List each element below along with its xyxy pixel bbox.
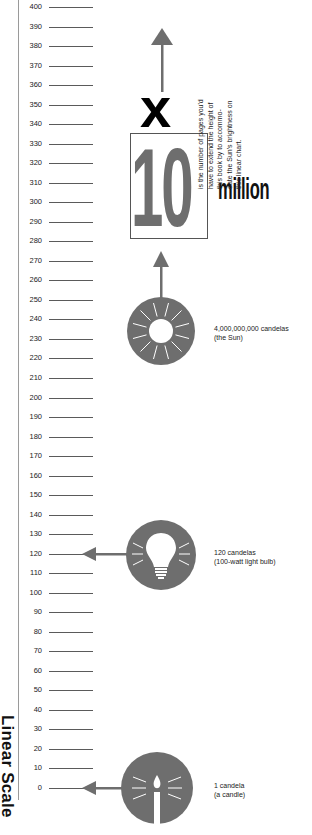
- tick-row: 390: [0, 21, 100, 33]
- tick-line: [49, 183, 93, 184]
- tick-row: 160: [0, 470, 100, 482]
- tick-label: 340: [20, 118, 42, 130]
- tick-label: 60: [20, 665, 42, 677]
- tick-label: 10: [20, 762, 42, 774]
- tick-line: [49, 202, 93, 203]
- tick-line: [49, 124, 93, 125]
- tick-line: [49, 495, 93, 496]
- tick-label: 30: [20, 723, 42, 735]
- multiplier-x: x: [140, 80, 171, 136]
- tick-row: 250: [0, 294, 100, 306]
- tick-line: [49, 671, 93, 672]
- tick-row: 320: [0, 157, 100, 169]
- tick-label: 80: [20, 626, 42, 638]
- tick-label: 160: [20, 470, 42, 482]
- tick-row: 190: [0, 411, 100, 423]
- tick-line: [49, 515, 93, 516]
- callout-line: have to extend the height of: [206, 59, 216, 189]
- scale-title: Linear Scale: [0, 715, 17, 815]
- tick-row: 180: [0, 431, 100, 443]
- tick-label: 300: [20, 196, 42, 208]
- tick-line: [49, 66, 93, 67]
- tick-label: 380: [20, 40, 42, 52]
- tick-line: [49, 476, 93, 477]
- tick-label: 310: [20, 177, 42, 189]
- tick-row: 370: [0, 60, 100, 72]
- tick-label: 110: [20, 567, 42, 579]
- tick-line: [49, 261, 93, 262]
- tick-row: 400: [0, 1, 100, 13]
- bulb-desc: (100-watt light bulb): [214, 557, 275, 566]
- tick-line: [49, 651, 93, 652]
- tick-label: 210: [20, 372, 42, 384]
- tick-label: 70: [20, 645, 42, 657]
- tick-line: [49, 241, 93, 242]
- tick-line: [49, 27, 93, 28]
- tick-label: 360: [20, 79, 42, 91]
- sun-caption: 4,000,000,000 candelas (the Sun): [214, 324, 289, 342]
- tick-row: 260: [0, 274, 100, 286]
- tick-line: [49, 163, 93, 164]
- tick-label: 350: [20, 99, 42, 111]
- tick-line: [49, 632, 93, 633]
- tick-line: [49, 280, 93, 281]
- tick-line: [49, 398, 93, 399]
- tick-row: 80: [0, 626, 100, 638]
- tick-line: [49, 300, 93, 301]
- tick-line: [49, 7, 93, 8]
- sun-value: 4,000,000,000 candelas: [214, 324, 289, 333]
- tick-label: 50: [20, 684, 42, 696]
- tick-line: [49, 749, 93, 750]
- tick-line: [49, 222, 93, 223]
- tick-label: 280: [20, 235, 42, 247]
- sun-icon: [120, 245, 204, 370]
- tick-label: 190: [20, 411, 42, 423]
- tick-label: 150: [20, 489, 42, 501]
- tick-label: 140: [20, 509, 42, 521]
- tick-line: [49, 417, 93, 418]
- tick-row: 350: [0, 99, 100, 111]
- tick-line: [49, 612, 93, 613]
- tick-line: [49, 378, 93, 379]
- tick-label: 370: [20, 60, 42, 72]
- tick-row: 360: [0, 79, 100, 91]
- tick-label: 390: [20, 21, 42, 33]
- light-bulb-icon: [80, 517, 200, 593]
- tick-row: 270: [0, 255, 100, 267]
- tick-line: [49, 85, 93, 86]
- tick-row: 340: [0, 118, 100, 130]
- tick-row: 50: [0, 684, 100, 696]
- tick-label: 270: [20, 255, 42, 267]
- callout-line: this linear chart.: [234, 59, 244, 189]
- tick-row: 330: [0, 138, 100, 150]
- tick-line: [49, 729, 93, 730]
- tick-label: 260: [20, 274, 42, 286]
- bulb-value: 120 candelas: [214, 548, 275, 557]
- tick-label: 40: [20, 704, 42, 716]
- tick-row: 280: [0, 235, 100, 247]
- tick-label: 240: [20, 313, 42, 325]
- tick-label: 170: [20, 450, 42, 462]
- tick-label: 230: [20, 333, 42, 345]
- tick-line: [49, 358, 93, 359]
- tick-line: [49, 105, 93, 106]
- callout-text: is the number of pages you'd have to ext…: [196, 59, 256, 189]
- tick-row: 210: [0, 372, 100, 384]
- tick-label: 180: [20, 431, 42, 443]
- tick-line: [49, 456, 93, 457]
- tick-label: 400: [20, 1, 42, 13]
- candle-value: 1 candela: [214, 781, 245, 790]
- tick-label: 330: [20, 138, 42, 150]
- tick-line: [49, 710, 93, 711]
- tick-label: 290: [20, 216, 42, 228]
- tick-row: 300: [0, 196, 100, 208]
- tick-label: 0: [20, 782, 42, 794]
- sun-desc: (the Sun): [214, 333, 289, 342]
- tick-label: 200: [20, 392, 42, 404]
- tick-row: 240: [0, 313, 100, 325]
- tick-line: [49, 339, 93, 340]
- callout-line: is the number of pages you'd: [196, 59, 206, 189]
- callout-line: this book by to accommo-: [215, 59, 225, 189]
- tick-label: 90: [20, 606, 42, 618]
- tick-row: 310: [0, 177, 100, 189]
